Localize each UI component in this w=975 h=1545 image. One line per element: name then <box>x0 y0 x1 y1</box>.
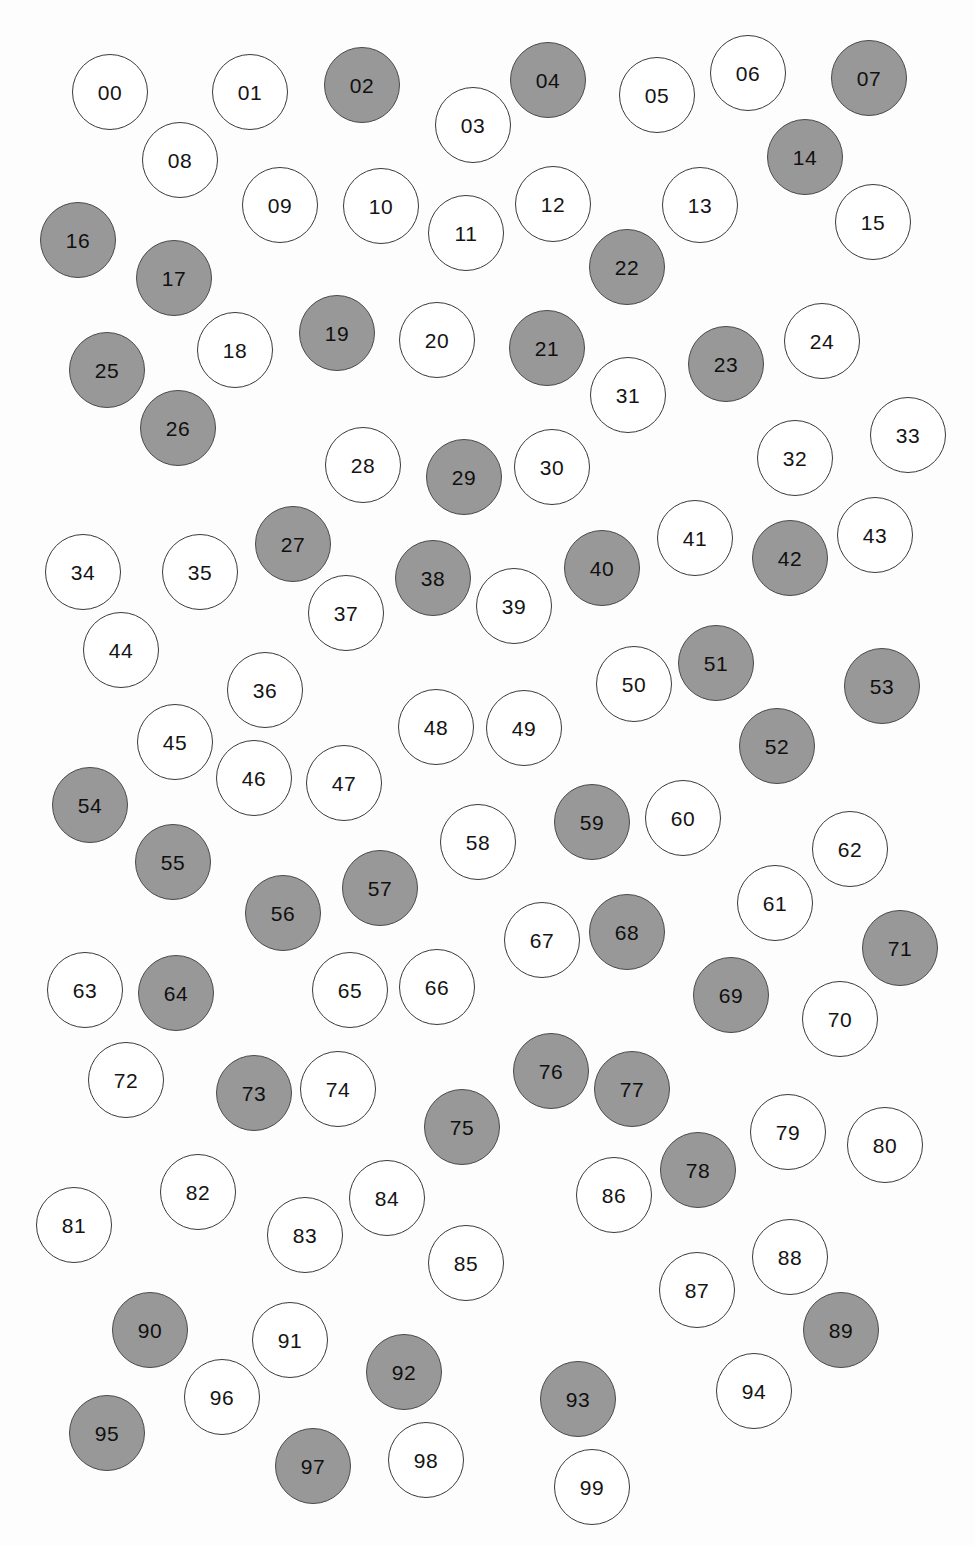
circle-node-49[interactable]: 49 <box>486 690 562 766</box>
circle-node-97[interactable]: 97 <box>275 1428 351 1504</box>
circle-node-52[interactable]: 52 <box>739 708 815 784</box>
circle-node-09[interactable]: 09 <box>242 167 318 243</box>
circle-node-39[interactable]: 39 <box>476 568 552 644</box>
circle-node-26[interactable]: 26 <box>140 390 216 466</box>
circle-node-55[interactable]: 55 <box>135 824 211 900</box>
circle-node-30[interactable]: 30 <box>514 429 590 505</box>
circle-node-70[interactable]: 70 <box>802 981 878 1057</box>
circle-node-59[interactable]: 59 <box>554 784 630 860</box>
circle-node-28[interactable]: 28 <box>325 427 401 503</box>
circle-node-21[interactable]: 21 <box>509 310 585 386</box>
circle-node-56[interactable]: 56 <box>245 875 321 951</box>
circle-node-27[interactable]: 27 <box>255 506 331 582</box>
circle-node-95[interactable]: 95 <box>69 1395 145 1471</box>
circle-node-45[interactable]: 45 <box>137 704 213 780</box>
circle-node-65[interactable]: 65 <box>312 952 388 1028</box>
circle-node-79[interactable]: 79 <box>750 1094 826 1170</box>
circle-node-61[interactable]: 61 <box>737 865 813 941</box>
circle-node-35[interactable]: 35 <box>162 534 238 610</box>
circle-node-75[interactable]: 75 <box>424 1089 500 1165</box>
circle-node-19[interactable]: 19 <box>299 295 375 371</box>
circle-node-77[interactable]: 77 <box>594 1051 670 1127</box>
circle-node-96[interactable]: 96 <box>184 1359 260 1435</box>
circle-node-29[interactable]: 29 <box>426 439 502 515</box>
circle-node-51[interactable]: 51 <box>678 625 754 701</box>
circle-node-00[interactable]: 00 <box>72 54 148 130</box>
circle-node-74[interactable]: 74 <box>300 1051 376 1127</box>
circle-node-16[interactable]: 16 <box>40 202 116 278</box>
circle-node-34[interactable]: 34 <box>45 534 121 610</box>
circle-node-57[interactable]: 57 <box>342 850 418 926</box>
circle-node-42[interactable]: 42 <box>752 520 828 596</box>
circle-node-20[interactable]: 20 <box>399 302 475 378</box>
circle-node-18[interactable]: 18 <box>197 312 273 388</box>
circle-node-22[interactable]: 22 <box>589 229 665 305</box>
circle-node-94[interactable]: 94 <box>716 1353 792 1429</box>
circle-node-08[interactable]: 08 <box>142 122 218 198</box>
circle-node-15[interactable]: 15 <box>835 184 911 260</box>
circle-node-44[interactable]: 44 <box>83 612 159 688</box>
circle-node-87[interactable]: 87 <box>659 1252 735 1328</box>
circle-node-60[interactable]: 60 <box>645 780 721 856</box>
circle-node-89[interactable]: 89 <box>803 1292 879 1368</box>
circle-node-24[interactable]: 24 <box>784 303 860 379</box>
circle-node-90[interactable]: 90 <box>112 1292 188 1368</box>
circle-node-86[interactable]: 86 <box>576 1157 652 1233</box>
circle-node-82[interactable]: 82 <box>160 1154 236 1230</box>
circle-node-64[interactable]: 64 <box>138 955 214 1031</box>
circle-node-04[interactable]: 04 <box>510 42 586 118</box>
circle-node-46[interactable]: 46 <box>216 740 292 816</box>
circle-node-14[interactable]: 14 <box>767 119 843 195</box>
circle-node-50[interactable]: 50 <box>596 646 672 722</box>
circle-node-58[interactable]: 58 <box>440 804 516 880</box>
circle-node-88[interactable]: 88 <box>752 1219 828 1295</box>
circle-node-67[interactable]: 67 <box>504 902 580 978</box>
circle-node-80[interactable]: 80 <box>847 1107 923 1183</box>
circle-node-32[interactable]: 32 <box>757 420 833 496</box>
circle-node-38[interactable]: 38 <box>395 540 471 616</box>
circle-node-71[interactable]: 71 <box>862 910 938 986</box>
circle-node-83[interactable]: 83 <box>267 1197 343 1273</box>
circle-node-23[interactable]: 23 <box>688 326 764 402</box>
circle-node-85[interactable]: 85 <box>428 1225 504 1301</box>
circle-node-68[interactable]: 68 <box>589 894 665 970</box>
circle-node-41[interactable]: 41 <box>657 500 733 576</box>
circle-node-63[interactable]: 63 <box>47 952 123 1028</box>
circle-node-91[interactable]: 91 <box>252 1302 328 1378</box>
circle-node-93[interactable]: 93 <box>540 1361 616 1437</box>
circle-node-12[interactable]: 12 <box>515 166 591 242</box>
circle-node-33[interactable]: 33 <box>870 397 946 473</box>
circle-node-17[interactable]: 17 <box>136 240 212 316</box>
circle-node-99[interactable]: 99 <box>554 1449 630 1525</box>
circle-node-37[interactable]: 37 <box>308 575 384 651</box>
circle-node-78[interactable]: 78 <box>660 1132 736 1208</box>
circle-node-76[interactable]: 76 <box>513 1033 589 1109</box>
circle-node-10[interactable]: 10 <box>343 168 419 244</box>
circle-node-03[interactable]: 03 <box>435 87 511 163</box>
circle-node-66[interactable]: 66 <box>399 949 475 1025</box>
circle-node-72[interactable]: 72 <box>88 1042 164 1118</box>
circle-node-25[interactable]: 25 <box>69 332 145 408</box>
circle-node-02[interactable]: 02 <box>324 47 400 123</box>
circle-node-81[interactable]: 81 <box>36 1187 112 1263</box>
circle-node-62[interactable]: 62 <box>812 811 888 887</box>
circle-node-06[interactable]: 06 <box>710 35 786 111</box>
circle-node-47[interactable]: 47 <box>306 745 382 821</box>
circle-node-73[interactable]: 73 <box>216 1055 292 1131</box>
circle-node-31[interactable]: 31 <box>590 357 666 433</box>
circle-node-98[interactable]: 98 <box>388 1422 464 1498</box>
circle-node-53[interactable]: 53 <box>844 648 920 724</box>
circle-node-11[interactable]: 11 <box>428 195 504 271</box>
circle-node-36[interactable]: 36 <box>227 652 303 728</box>
circle-node-84[interactable]: 84 <box>349 1160 425 1236</box>
circle-node-48[interactable]: 48 <box>398 689 474 765</box>
circle-node-92[interactable]: 92 <box>366 1334 442 1410</box>
circle-node-13[interactable]: 13 <box>662 167 738 243</box>
circle-node-07[interactable]: 07 <box>831 40 907 116</box>
circle-node-43[interactable]: 43 <box>837 497 913 573</box>
circle-node-05[interactable]: 05 <box>619 57 695 133</box>
circle-node-40[interactable]: 40 <box>564 530 640 606</box>
circle-node-54[interactable]: 54 <box>52 767 128 843</box>
circle-node-69[interactable]: 69 <box>693 957 769 1033</box>
circle-node-01[interactable]: 01 <box>212 54 288 130</box>
